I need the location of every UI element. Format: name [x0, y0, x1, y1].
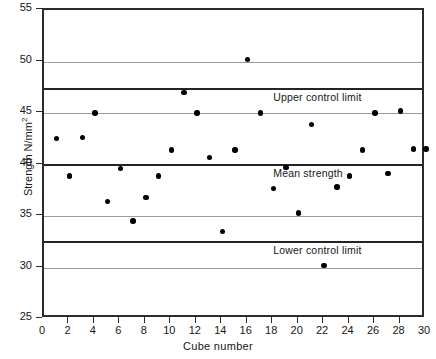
data-point — [334, 184, 339, 189]
y-tick-label-50: 50 — [20, 53, 32, 65]
data-point — [283, 165, 288, 170]
y-tick-label-35: 35 — [20, 207, 32, 219]
x-tick-label-22: 22 — [316, 324, 328, 336]
x-tick-12 — [195, 317, 196, 323]
x-tick-label-4: 4 — [90, 324, 96, 336]
data-point — [54, 136, 59, 141]
data-point — [360, 147, 365, 152]
data-point — [207, 155, 212, 160]
data-point — [385, 171, 390, 176]
x-tick-label-14: 14 — [214, 324, 226, 336]
gridline-y-35 — [44, 216, 422, 217]
x-tick-label-16: 16 — [240, 324, 252, 336]
plot-area: Upper control limitMean strengthLower co… — [42, 8, 424, 317]
x-tick-16 — [246, 317, 247, 323]
reference-line-0 — [44, 88, 422, 90]
x-tick-4 — [93, 317, 94, 323]
x-tick-label-8: 8 — [141, 324, 147, 336]
data-point — [347, 173, 352, 178]
x-tick-label-10: 10 — [163, 324, 175, 336]
x-tick-label-28: 28 — [392, 324, 404, 336]
reference-line-label-0: Upper control limit — [273, 91, 361, 103]
data-point — [309, 122, 314, 127]
x-tick-26 — [373, 317, 374, 323]
x-tick-label-0: 0 — [39, 324, 45, 336]
data-point — [372, 110, 377, 115]
data-point — [181, 90, 186, 95]
y-axis-title-superscript: 2 — [20, 118, 29, 122]
gridline-y-50 — [44, 62, 422, 63]
reference-line-2 — [44, 241, 422, 243]
x-tick-label-24: 24 — [341, 324, 353, 336]
data-point — [92, 110, 97, 115]
x-tick-20 — [297, 317, 298, 323]
data-point — [232, 147, 237, 152]
reference-line-label-2: Lower control limit — [273, 244, 361, 256]
data-point — [321, 263, 326, 268]
x-tick-label-12: 12 — [189, 324, 201, 336]
data-point — [296, 210, 301, 215]
data-point — [220, 229, 225, 234]
gridline-y-45 — [44, 113, 422, 114]
y-tick-25 — [36, 317, 42, 318]
data-point — [169, 147, 174, 152]
x-axis-title: Cube number — [0, 340, 436, 352]
data-point — [411, 146, 416, 151]
data-point — [130, 218, 135, 223]
data-point — [398, 108, 403, 113]
data-point — [271, 186, 276, 191]
y-tick-label-25: 25 — [20, 310, 32, 322]
x-tick-label-2: 2 — [64, 324, 70, 336]
data-point — [194, 110, 199, 115]
reference-line-1 — [44, 164, 422, 166]
x-tick-22 — [322, 317, 323, 323]
y-tick-label-45: 45 — [20, 104, 32, 116]
gridline-y-30 — [44, 268, 422, 269]
data-point — [423, 146, 428, 151]
x-tick-label-20: 20 — [291, 324, 303, 336]
x-tick-2 — [67, 317, 68, 323]
control-chart: Strength N/mm2 25303540455055 Upper cont… — [0, 0, 436, 359]
x-tick-label-18: 18 — [265, 324, 277, 336]
x-tick-14 — [220, 317, 221, 323]
x-tick-28 — [399, 317, 400, 323]
y-tick-label-40: 40 — [20, 156, 32, 168]
x-tick-label-26: 26 — [367, 324, 379, 336]
x-tick-6 — [118, 317, 119, 323]
data-point — [80, 135, 85, 140]
y-tick-label-30: 30 — [20, 259, 32, 271]
data-point — [258, 110, 263, 115]
data-point — [105, 199, 110, 204]
data-point — [118, 166, 123, 171]
y-tick-label-55: 55 — [20, 1, 32, 13]
x-tick-label-6: 6 — [115, 324, 121, 336]
x-tick-18 — [271, 317, 272, 323]
data-point — [143, 195, 148, 200]
data-point — [67, 173, 72, 178]
data-point — [156, 173, 161, 178]
x-tick-8 — [144, 317, 145, 323]
x-tick-24 — [348, 317, 349, 323]
x-tick-10 — [169, 317, 170, 323]
x-tick-label-30: 30 — [418, 324, 430, 336]
